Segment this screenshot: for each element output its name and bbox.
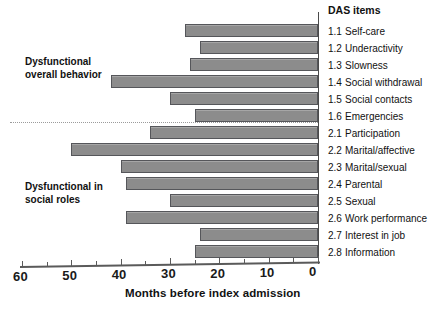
das-item-code: 2.5	[328, 196, 345, 207]
bar-1-4	[111, 75, 318, 88]
das-item-label-1-2: 1.2Underactivity	[328, 43, 403, 54]
x-axis-tick	[145, 261, 146, 265]
bar-2-4	[126, 177, 318, 190]
bar-row	[0, 126, 318, 139]
x-axis-tick	[22, 261, 23, 267]
bar-row	[0, 92, 318, 105]
das-item-code: 2.2	[328, 145, 345, 156]
bar-2-6	[126, 211, 318, 224]
das-item-label-2-7: 2.7Interest in job	[328, 230, 405, 241]
x-axis-tick	[47, 262, 48, 266]
das-item-name: Participation	[345, 128, 400, 139]
bar-row	[0, 143, 318, 156]
das-item-code: 2.8	[328, 247, 345, 258]
das-item-name: Work performance	[345, 213, 427, 224]
das-item-label-1-6: 1.6Emergencies	[328, 111, 403, 122]
bar-row	[0, 41, 318, 54]
x-axis-tick-label: 20	[210, 266, 225, 281]
bar-row	[0, 160, 318, 173]
x-axis-tick	[71, 260, 72, 266]
das-item-label-1-4: 1.4Social withdrawal	[328, 77, 422, 88]
x-axis-tick	[269, 257, 270, 263]
group-label-line-2: social roles	[25, 193, 103, 206]
das-item-code: 1.1	[328, 26, 345, 37]
das-item-code: 1.4	[328, 77, 345, 88]
bar-2-3	[121, 160, 318, 173]
x-axis-title: Months before index admission	[125, 287, 300, 299]
bar-row	[0, 245, 318, 258]
das-item-code: 1.3	[328, 60, 345, 71]
group-label-line-1: Dysfunctional	[25, 55, 102, 68]
bar-row	[0, 24, 318, 37]
group-separator-line	[10, 122, 318, 123]
das-item-name: Emergencies	[345, 111, 403, 122]
bar-row	[0, 211, 318, 224]
das-item-label-2-1: 2.1Participation	[328, 128, 400, 139]
das-item-name: Marital/affective	[345, 145, 415, 156]
x-axis-tick-label: 40	[112, 267, 127, 282]
x-axis-tick-label: 30	[161, 266, 176, 281]
x-axis-tick	[318, 256, 319, 262]
das-item-label-2-3: 2.3Marital/sexual	[328, 162, 407, 173]
das-item-code: 2.1	[328, 128, 345, 139]
bar-1-5	[170, 92, 318, 105]
x-axis-tick-label: 50	[62, 268, 77, 283]
plot-area	[0, 0, 325, 268]
das-item-label-1-3: 1.3Slowness	[328, 60, 388, 71]
das-item-label-column: DAS items 1.1Self-care1.2Underactivity1.…	[325, 0, 429, 268]
das-item-name: Social withdrawal	[345, 77, 422, 88]
das-items-bar-chart: 6050403020100 Months before index admiss…	[0, 0, 429, 309]
x-axis-tick	[96, 261, 97, 265]
x-axis-tick-label: 10	[260, 265, 275, 280]
x-axis-tick	[195, 260, 196, 264]
x-axis-tick	[293, 258, 294, 262]
das-item-code: 2.6	[328, 213, 345, 224]
das-item-label-2-4: 2.4Parental	[328, 179, 382, 190]
das-item-label-2-8: 2.8Information	[328, 247, 395, 258]
bar-2-1	[150, 126, 318, 139]
x-axis-tick-label: 0	[309, 264, 316, 279]
bar-2-7	[200, 228, 318, 241]
das-item-label-1-1: 1.1Self-care	[328, 26, 385, 37]
das-item-label-2-5: 2.5Sexual	[328, 196, 376, 207]
das-item-name: Parental	[345, 179, 382, 190]
bar-2-5	[170, 194, 318, 207]
bar-1-1	[185, 24, 318, 37]
x-axis-tick-label: 60	[13, 269, 28, 284]
bar-1-3	[190, 58, 318, 71]
x-axis-tick	[121, 259, 122, 265]
group-label-line-2: overall behavior	[25, 68, 102, 81]
bar-1-2	[200, 41, 318, 54]
das-item-code: 1.5	[328, 94, 345, 105]
das-item-code: 2.4	[328, 179, 345, 190]
das-item-code: 1.6	[328, 111, 345, 122]
das-item-code: 1.2	[328, 43, 345, 54]
bar-row	[0, 228, 318, 241]
bar-2-8	[195, 245, 318, 258]
das-item-code: 2.3	[328, 162, 345, 173]
das-item-name: Marital/sexual	[345, 162, 407, 173]
das-item-name: Sexual	[345, 196, 376, 207]
das-items-heading: DAS items	[328, 4, 381, 16]
x-axis-tick	[219, 258, 220, 264]
bar-2-2	[71, 143, 318, 156]
x-axis-tick	[170, 258, 171, 264]
das-item-label-1-5: 1.5Social contacts	[328, 94, 412, 105]
group-label-dysfunctional-in-social-roles: Dysfunctional in social roles	[25, 180, 103, 206]
x-axis-tick	[244, 259, 245, 263]
das-item-name: Self-care	[345, 26, 385, 37]
zero-baseline-axis	[318, 12, 319, 264]
das-item-code: 2.7	[328, 230, 345, 241]
das-item-name: Social contacts	[345, 94, 412, 105]
bar-1-6	[195, 109, 318, 122]
das-item-name: Slowness	[345, 60, 388, 71]
group-label-dysfunctional-overall-behavior: Dysfunctional overall behavior	[25, 55, 102, 81]
das-item-name: Interest in job	[345, 230, 405, 241]
das-item-name: Information	[345, 247, 395, 258]
bar-row	[0, 109, 318, 122]
das-item-label-2-2: 2.2Marital/affective	[328, 145, 415, 156]
group-label-line-1: Dysfunctional in	[25, 180, 103, 193]
das-item-name: Underactivity	[345, 43, 403, 54]
das-item-label-2-6: 2.6Work performance	[328, 213, 427, 224]
